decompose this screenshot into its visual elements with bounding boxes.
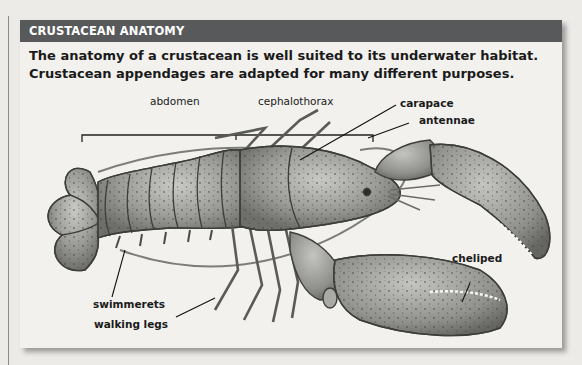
lower-claw-drawing bbox=[290, 232, 507, 336]
tail-fan-drawing bbox=[48, 168, 101, 270]
label-cephalothorax: cephalothorax bbox=[258, 95, 334, 107]
label-cheliped: cheliped bbox=[452, 252, 502, 264]
lobster-illustration bbox=[0, 0, 582, 365]
upper-claw-drawing bbox=[375, 140, 550, 258]
label-swimmerets: swimmerets bbox=[93, 298, 165, 310]
label-carapace: carapace bbox=[400, 97, 454, 109]
label-abdomen: abdomen bbox=[150, 95, 200, 107]
abdomen-drawing bbox=[98, 150, 255, 238]
label-walking-legs: walking legs bbox=[94, 318, 168, 330]
carapace-drawing bbox=[240, 146, 400, 230]
swimmerets-drawing bbox=[116, 230, 212, 248]
label-antennae: antennae bbox=[419, 114, 475, 126]
